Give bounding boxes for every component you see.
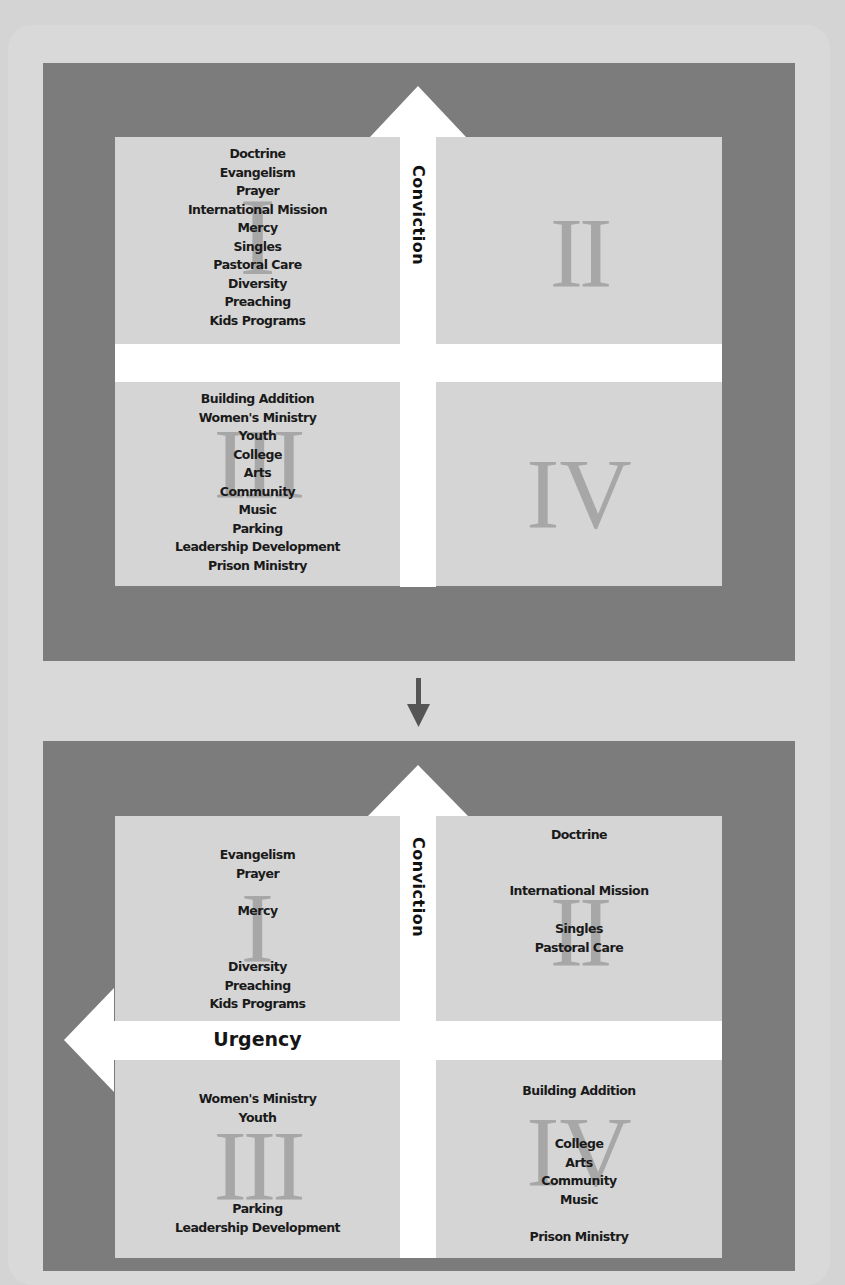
after-quadrant-2: II Doctrine International Mission Single…: [436, 816, 722, 1021]
ministry-item: Doctrine: [436, 826, 722, 845]
ministry-item: Prison Ministry: [436, 1228, 722, 1247]
ministry-group: Prison Ministry: [436, 1228, 722, 1247]
ministry-item: Preaching: [115, 977, 400, 996]
ministry-group: Singles Pastoral Care: [436, 920, 722, 957]
ministry-item: Community: [436, 1172, 722, 1191]
ministry-item: Prayer: [115, 865, 400, 884]
ministry-item: Leadership Development: [115, 1219, 400, 1238]
ministry-group: Building Addition: [436, 1082, 722, 1101]
ministry-group: College Arts Community Music: [436, 1135, 722, 1209]
after-quadrant-1: I Evangelism Prayer Mercy Diversity Prea…: [115, 816, 400, 1021]
ministry-item: College: [436, 1135, 722, 1154]
after-quadrant-3: III Women's Ministry Youth Parking Leade…: [115, 1060, 400, 1258]
ministry-item: Mercy: [115, 902, 400, 921]
after-quadrant-4: IV Building Addition College Arts Commun…: [436, 1060, 722, 1258]
ministry-group: Mercy: [115, 902, 400, 921]
conviction-axis-label: Conviction: [408, 837, 428, 937]
ministry-group: Parking Leadership Development: [115, 1200, 400, 1237]
ministry-item: Evangelism: [115, 846, 400, 865]
ministry-group: Doctrine: [436, 826, 722, 845]
ministry-group: Women's Ministry Youth: [115, 1090, 400, 1127]
ministry-item: Music: [436, 1191, 722, 1210]
ministry-item: Women's Ministry: [115, 1090, 400, 1109]
ministry-group: International Mission: [436, 882, 722, 901]
ministry-group: Evangelism Prayer: [115, 846, 400, 883]
ministry-item: International Mission: [436, 882, 722, 901]
ministry-item: Pastoral Care: [436, 939, 722, 958]
ministry-item: Arts: [436, 1154, 722, 1173]
ministry-group: Diversity Preaching Kids Programs: [115, 958, 400, 1014]
urgency-axis-label: Urgency: [115, 1028, 400, 1050]
ministry-item: Diversity: [115, 958, 400, 977]
ministry-item: Building Addition: [436, 1082, 722, 1101]
ministry-item: Parking: [115, 1200, 400, 1219]
ministry-item: Kids Programs: [115, 995, 400, 1014]
ministry-item: Youth: [115, 1109, 400, 1128]
ministry-item: Singles: [436, 920, 722, 939]
